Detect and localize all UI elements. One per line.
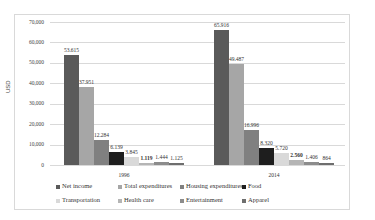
legend-swatch-icon	[242, 199, 246, 203]
bar	[289, 160, 304, 165]
bar	[304, 162, 319, 165]
legend-label: Entertainment	[186, 196, 223, 203]
bar-value-label: 37.951	[72, 79, 102, 85]
bar-value-label: 65.916	[207, 22, 237, 28]
bar	[214, 30, 229, 165]
legend-swatch-icon	[118, 185, 122, 189]
legend-label: Net income	[62, 182, 92, 189]
y-tick-label: 20,000	[14, 121, 44, 127]
y-axis-label: USD	[5, 80, 11, 93]
legend-item: Net income	[56, 182, 92, 189]
y-tick-label: 70,000	[14, 19, 44, 25]
bar	[79, 87, 94, 165]
legend-swatch-icon	[180, 185, 184, 189]
legend-label: Housing expenditures	[186, 182, 243, 189]
bar	[169, 163, 184, 165]
y-tick-label: 10,000	[14, 141, 44, 147]
legend-item: Health care	[118, 196, 154, 203]
bar-value-label: 5.720	[267, 145, 297, 151]
bar	[64, 55, 79, 165]
bar	[319, 163, 334, 165]
legend-item: Apparel	[242, 196, 269, 203]
bar-value-label: 53.615	[57, 47, 87, 53]
x-category-label: 2014	[254, 172, 294, 178]
gridline	[50, 22, 345, 23]
y-tick-label: 40,000	[14, 80, 44, 86]
y-tick-label: 60,000	[14, 39, 44, 45]
gridline	[50, 165, 345, 166]
legend-label: Total expenditures	[124, 182, 172, 189]
legend-item: Food	[242, 182, 261, 189]
legend-label: Apparel	[248, 196, 269, 203]
legend-swatch-icon	[56, 199, 60, 203]
y-tick-label: 50,000	[14, 59, 44, 65]
legend-label: Health care	[124, 196, 154, 203]
legend-swatch-icon	[56, 185, 60, 189]
bar-value-label: 16.996	[237, 122, 267, 128]
gridline	[50, 124, 345, 125]
bar	[139, 163, 154, 165]
y-tick-label: 0	[14, 162, 44, 168]
bar	[244, 130, 259, 165]
legend-item: Total expenditures	[118, 182, 172, 189]
gridline	[50, 63, 345, 64]
legend-swatch-icon	[118, 199, 122, 203]
y-tick-label: 30,000	[14, 100, 44, 106]
legend-label: Food	[248, 182, 261, 189]
bar-value-label: 1.125	[162, 155, 192, 161]
legend-swatch-icon	[242, 185, 246, 189]
legend-item: Transportation	[56, 196, 100, 203]
gridline	[50, 104, 345, 105]
bar-value-label: 49.487	[222, 56, 252, 62]
bar	[229, 64, 244, 165]
legend-label: Transportation	[62, 196, 100, 203]
bar-value-label: 12.284	[87, 132, 117, 138]
bar-value-label: 864	[312, 155, 342, 161]
bar	[154, 162, 169, 165]
legend-item: Entertainment	[180, 196, 223, 203]
legend-item: Housing expenditures	[180, 182, 243, 189]
legend-swatch-icon	[180, 199, 184, 203]
x-category-label: 1996	[104, 172, 144, 178]
gridline	[50, 42, 345, 43]
